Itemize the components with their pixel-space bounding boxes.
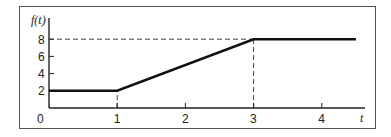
chart-frame (20, 7, 376, 129)
y-tick-label: 4 (38, 67, 45, 81)
series-line-f-of-t (49, 39, 356, 91)
x-tick-label: 4 (318, 112, 325, 126)
x-tick-label: 2 (182, 112, 189, 126)
x-axis-label: t (360, 111, 364, 125)
chart-figure: 246801234 f(t) t (0, 0, 391, 137)
x-tick-label: 3 (250, 112, 257, 126)
x-tick-label: 0 (37, 112, 44, 126)
y-tick-label: 8 (38, 33, 45, 47)
y-tick-label: 2 (38, 84, 45, 98)
axes (49, 18, 365, 108)
y-axis-label: f(t) (31, 13, 46, 27)
x-tick-label: 1 (114, 112, 121, 126)
axis-ticks: 246801234 (37, 33, 325, 126)
y-tick-label: 6 (38, 50, 45, 64)
